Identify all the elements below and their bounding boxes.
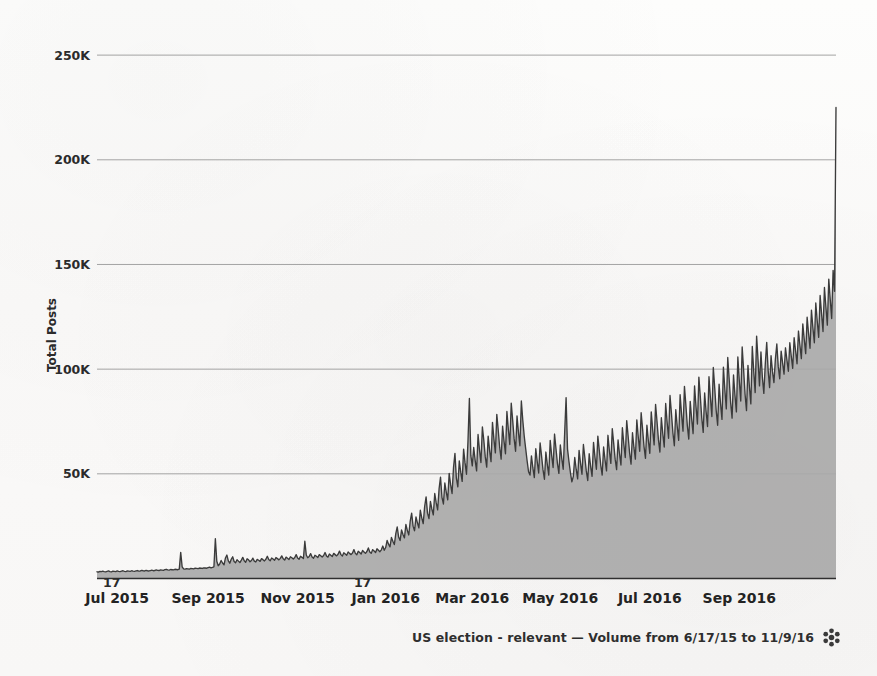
x-minor-tick-label: 17: [354, 575, 371, 590]
y-tick-label: 100K: [54, 362, 91, 377]
chart-caption-text: US election - relevant — Volume from 6/1…: [412, 630, 814, 645]
series-area-fill: [97, 107, 836, 578]
x-tick-label: Mar 2016: [435, 590, 509, 606]
series-plot-group: [97, 107, 836, 578]
chart-caption-bar: US election - relevant — Volume from 6/1…: [0, 620, 877, 654]
x-tick-label: Jul 2015: [84, 590, 149, 606]
y-axis-tick-labels: 50K100K150K200K250K: [54, 48, 91, 482]
x-tick-label: Sep 2015: [171, 590, 244, 606]
x-tick-label: Nov 2015: [260, 590, 334, 606]
chart-page: 50K100K150K200K250K Total Posts 1717 Jul…: [0, 0, 877, 676]
x-tick-label: Jan 2016: [350, 590, 419, 606]
y-tick-label: 200K: [54, 152, 91, 167]
y-tick-label: 150K: [54, 257, 91, 272]
y-tick-label: 50K: [63, 466, 91, 481]
crimson-hexagon-logo-icon: [822, 628, 841, 647]
x-tick-label: May 2016: [522, 590, 598, 606]
y-axis-title: Total Posts: [45, 298, 59, 372]
y-tick-label: 250K: [54, 48, 91, 63]
volume-area-chart: 50K100K150K200K250K Total Posts 1717 Jul…: [0, 0, 877, 676]
x-minor-tick-label: 17: [103, 575, 120, 590]
x-tick-label: Jul 2016: [617, 590, 682, 606]
x-tick-label: Sep 2016: [703, 590, 776, 606]
x-axis-tick-labels: Jul 2015Sep 2015Nov 2015Jan 2016Mar 2016…: [84, 590, 776, 606]
